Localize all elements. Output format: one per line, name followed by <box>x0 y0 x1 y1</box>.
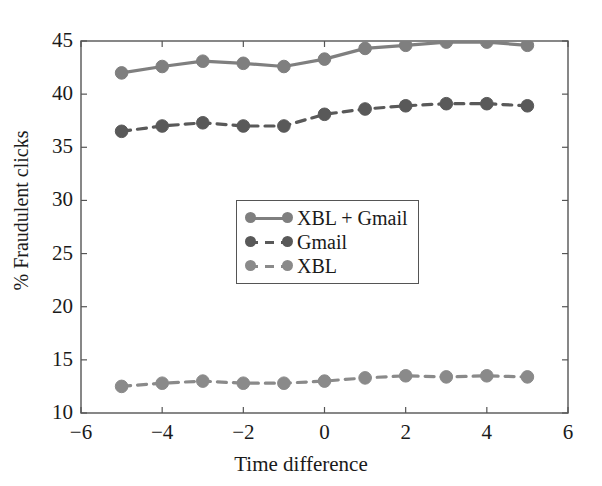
data-point <box>359 103 372 116</box>
data-point <box>359 372 372 385</box>
legend-item[interactable]: XBL <box>243 254 408 278</box>
data-point <box>399 370 412 383</box>
x-axis-label: Time difference <box>0 452 602 477</box>
x-tick-label: −4 <box>142 422 182 443</box>
y-axis-label-text: % Fraudulent clicks <box>11 130 34 290</box>
x-tick-label: −6 <box>61 422 101 443</box>
chart-legend: XBL + Gmail Gmail XBL <box>236 200 419 284</box>
data-point <box>399 100 412 113</box>
legend-label-series-0: XBL + Gmail <box>295 207 408 230</box>
y-tick-label: 25 <box>52 243 73 264</box>
data-point <box>156 120 169 133</box>
legend-marker-icon <box>245 260 256 271</box>
data-point <box>278 120 291 133</box>
legend-swatch-series-1 <box>243 232 295 252</box>
data-point <box>115 67 128 80</box>
y-tick-label: 20 <box>52 296 73 317</box>
data-point <box>521 100 534 113</box>
data-point <box>237 57 250 70</box>
data-point <box>197 375 210 388</box>
data-point <box>278 60 291 73</box>
y-tick-label: 15 <box>52 349 73 370</box>
y-tick-label: 35 <box>52 136 73 157</box>
data-point <box>237 120 250 133</box>
data-point <box>278 377 291 390</box>
x-tick-label: 4 <box>467 422 507 443</box>
legend-swatch-series-0 <box>243 208 295 228</box>
legend-marker-icon <box>282 260 293 271</box>
data-point <box>440 97 453 110</box>
legend-marker-icon <box>282 236 293 247</box>
legend-marker-icon <box>245 236 256 247</box>
y-tick-label: 30 <box>52 189 73 210</box>
data-point <box>115 380 128 393</box>
data-point <box>237 377 250 390</box>
legend-label-series-2: XBL <box>295 255 337 278</box>
chart-figure: % Fraudulent clicks Time difference 1015… <box>0 0 602 486</box>
data-point <box>156 60 169 73</box>
data-point <box>481 97 494 110</box>
data-point <box>440 371 453 384</box>
legend-marker-icon <box>282 212 293 223</box>
y-tick-label: 40 <box>52 83 73 104</box>
x-tick-label: 2 <box>386 422 426 443</box>
legend-swatch-series-2 <box>243 256 295 276</box>
data-point <box>521 371 534 384</box>
data-point <box>115 125 128 138</box>
data-point <box>318 375 331 388</box>
data-point <box>318 108 331 121</box>
data-point <box>359 42 372 55</box>
data-point <box>156 377 169 390</box>
data-point <box>440 36 453 49</box>
data-point <box>197 55 210 68</box>
x-tick-label: 0 <box>305 422 345 443</box>
y-axis-label: % Fraudulent clicks <box>4 0 40 420</box>
legend-item[interactable]: Gmail <box>243 230 408 254</box>
data-point <box>197 117 210 130</box>
y-tick-label: 45 <box>52 30 73 51</box>
x-tick-label: −2 <box>223 422 263 443</box>
data-point <box>481 370 494 383</box>
legend-item[interactable]: XBL + Gmail <box>243 206 408 230</box>
legend-label-series-1: Gmail <box>295 231 347 254</box>
data-point <box>318 53 331 66</box>
x-tick-label: 6 <box>548 422 588 443</box>
legend-marker-icon <box>245 212 256 223</box>
data-point <box>481 36 494 49</box>
